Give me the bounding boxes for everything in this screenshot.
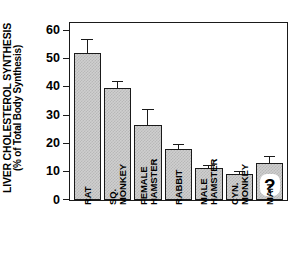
error-bar-line-0 [87,40,88,53]
x-tick-label-line: RABBIT [174,170,184,205]
x-tick-label-line: HAMSTER [148,159,158,205]
error-bar-line-1 [117,82,118,88]
x-tick-label-rat: RAT [83,186,93,205]
error-bar-cap-2 [142,109,153,110]
x-tick-label-male-hamster: MALEHAMSTER [199,159,218,205]
x-tick-label-rabbit: RABBIT [174,170,184,205]
error-bar-line-3 [178,145,179,149]
error-bar-cap-3 [173,144,184,145]
y-tick-10 [63,171,70,172]
y-tick-label-60: 60 [34,24,60,37]
x-tick-label-line: FEMALE [139,159,149,205]
y-tick-40 [63,86,70,87]
error-bar-line-6 [269,156,270,162]
x-tick-label-line: HAMSTER [209,159,219,205]
error-bar-line-2 [147,109,148,125]
y-tick-label-50: 50 [34,52,60,65]
y-tick-30 [63,115,70,116]
error-bar-cap-1 [112,81,123,82]
y-tick-20 [63,143,70,144]
x-tick-label-man: MAN [265,184,275,205]
y-tick-0 [63,199,70,200]
error-bar-cap-6 [264,156,275,157]
bar-rat [74,53,101,200]
y-tick-label-40: 40 [34,80,60,93]
x-tick-label-line: MONKEY [118,164,128,205]
x-tick-label-sq-monkey: SQ.MONKEY [108,164,127,205]
y-tick-label-30: 30 [34,109,60,122]
y-tick-label-10: 10 [34,165,60,178]
y-tick-label-0: 0 [34,194,60,207]
x-tick-label-line: RAT [83,186,93,205]
y-tick-50 [63,58,70,59]
chart-figure: LIVER CHOLESTEROL SYNTHESIS (% of Total … [0,0,299,280]
x-tick-label-cyn-monkey: CYN.MONKEY [230,164,249,205]
y-tick-label-20: 20 [34,137,60,150]
error-bar-cap-0 [81,39,92,40]
x-tick-label-female-hamster: FEMALEHAMSTER [139,159,158,205]
x-tick-label-line: MONKEY [240,164,250,205]
y-tick-60 [63,30,70,31]
x-tick-label-line: MAN [265,184,275,205]
y-axis-title-line2: (% of Total Body Synthesis) [13,8,24,208]
